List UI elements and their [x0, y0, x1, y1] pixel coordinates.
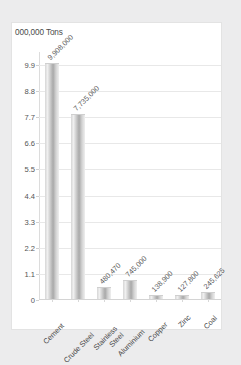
- y-axis-tick-label: 2.2: [24, 243, 35, 252]
- x-axis-tick-mark: [130, 299, 131, 302]
- y-axis-tick-mark: [36, 117, 39, 118]
- bar-value-label: 745,000: [124, 254, 149, 279]
- bar[interactable]: 127,800Zinc: [175, 295, 189, 299]
- y-axis-tick-mark: [36, 196, 39, 197]
- gridline: [39, 65, 221, 66]
- gridline: [39, 196, 221, 197]
- bar[interactable]: 138,900Copper: [149, 295, 163, 299]
- y-axis-tick-mark: [36, 274, 39, 275]
- bar-value-label: 127,800: [176, 269, 201, 294]
- x-axis-tick-mark: [208, 299, 209, 302]
- gridline: [39, 143, 221, 144]
- bar-value-label: 7,735,000: [72, 84, 101, 113]
- bar[interactable]: 7,735,000Crude Steel: [71, 114, 85, 299]
- y-axis-tick-label: 5.5: [24, 165, 35, 174]
- chart-card: 000,000 Tons 9.98.87.76.65.54.43.32.21.1…: [11, 22, 222, 330]
- y-axis-tick-label: 0: [31, 296, 35, 305]
- y-axis-tick-mark: [36, 248, 39, 249]
- bar[interactable]: 245,625Coal: [201, 292, 215, 299]
- y-axis-tick-label: 8.8: [24, 87, 35, 96]
- x-axis-tick-mark: [104, 299, 105, 302]
- y-axis-tick-mark: [36, 91, 39, 92]
- y-axis-tick-label: 9.9: [24, 61, 35, 70]
- y-axis-tick-label: 7.7: [24, 113, 35, 122]
- y-axis-tick-mark: [36, 222, 39, 223]
- bar-value-label: 245,625: [202, 266, 227, 291]
- bar-value-label: 138,900: [150, 269, 175, 294]
- x-axis-category-label: Copper: [146, 320, 170, 344]
- y-axis-tick-mark: [36, 300, 39, 301]
- bar[interactable]: 745,000Aluminium: [123, 280, 137, 299]
- bar[interactable]: 480,470StainlessSteel: [97, 287, 111, 299]
- x-axis-tick-mark: [182, 299, 183, 302]
- y-axis-tick-label: 6.6: [24, 139, 35, 148]
- gridline: [39, 117, 221, 118]
- x-axis-tick-mark: [78, 299, 79, 302]
- x-axis-category-label: Coal: [202, 314, 219, 331]
- plot-area: 9.98.87.76.65.54.43.32.21.10 9,908,000Ce…: [39, 52, 221, 300]
- y-axis-tick-mark: [36, 169, 39, 170]
- x-axis-category-label: Crude Steel: [62, 331, 96, 365]
- bar[interactable]: 9,908,000Cement: [45, 63, 59, 299]
- chart-title: 000,000 Tons: [15, 28, 63, 37]
- y-axis-tick-mark: [36, 143, 39, 144]
- gridline: [39, 91, 221, 92]
- y-axis-line: [39, 52, 40, 300]
- x-axis-tick-mark: [156, 299, 157, 302]
- y-axis-tick-label: 3.3: [24, 217, 35, 226]
- x-axis-category-label: Cement: [41, 321, 66, 346]
- y-axis-tick-label: 1.1: [24, 269, 35, 278]
- gridline: [39, 169, 221, 170]
- gridline: [39, 248, 221, 249]
- x-axis-category-label: Zinc: [176, 313, 192, 329]
- x-axis-tick-mark: [52, 299, 53, 302]
- y-axis-tick-mark: [36, 65, 39, 66]
- gridline: [39, 222, 221, 223]
- y-axis-tick-label: 4.4: [24, 191, 35, 200]
